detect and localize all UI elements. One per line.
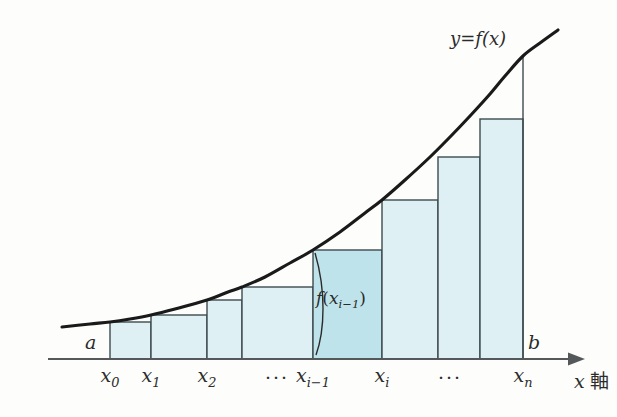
riemann-bar [438, 157, 480, 359]
tick-subscript: i [385, 375, 389, 390]
x-axis-ellipsis: ··· [438, 368, 462, 387]
bars-group [110, 119, 523, 359]
x-axis-name-japanese: 軸 [590, 370, 609, 392]
tick-base: x [101, 364, 112, 386]
x-axis-tick-label-xi-1: xi−1 [296, 366, 330, 390]
upper-bound-label: b [528, 333, 540, 352]
tick-base: x [514, 364, 525, 386]
curve-label: y=f(x) [450, 30, 506, 48]
height-label-close-paren: ) [359, 288, 366, 308]
riemann-bar [151, 315, 207, 359]
height-label-x: x [329, 288, 339, 308]
tick-base: x [375, 364, 386, 386]
tick-subscript: 1 [152, 375, 160, 390]
riemann-bar [382, 200, 438, 359]
tick-subscript: n [524, 375, 532, 390]
tick-subscript: 0 [111, 375, 119, 390]
height-label-open-paren: ( [322, 288, 329, 308]
tick-base: x [142, 364, 153, 386]
x-axis-tick-label-x0: x0 [101, 366, 120, 390]
x-axis-tick-label-x1: x1 [142, 366, 161, 390]
x-axis-name: x軸 [574, 372, 609, 391]
height-label-subscript: i−1 [339, 297, 360, 311]
riemann-bar [110, 322, 151, 359]
height-label-f-x-i-minus-1: f(xi−1) [316, 290, 366, 311]
riemann-sum-figure: y=f(x) a b f(xi−1) x0x1x2···xi−1xi···xn … [0, 0, 617, 417]
x-axis-arrowhead [568, 353, 585, 366]
riemann-bar [242, 287, 313, 359]
tick-subscript: i−1 [307, 375, 330, 390]
x-axis-tick-label-xn: xn [514, 366, 533, 390]
lower-bound-label: a [85, 333, 96, 352]
riemann-bar [207, 300, 242, 359]
x-axis-ellipsis: ··· [265, 368, 289, 387]
tick-subscript: 2 [208, 375, 216, 390]
x-axis-name-symbol: x [574, 370, 585, 392]
tick-base: x [296, 364, 307, 386]
x-axis-tick-label-xi: xi [375, 366, 390, 390]
x-axis-tick-label-x2: x2 [198, 366, 217, 390]
riemann-bar [480, 119, 523, 359]
figure-canvas [0, 0, 617, 417]
tick-base: x [198, 364, 209, 386]
